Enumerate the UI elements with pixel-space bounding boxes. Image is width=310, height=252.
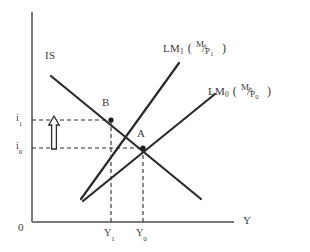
lm0-label-base: LM (208, 85, 225, 97)
x-axis-label: Y (243, 215, 251, 226)
y-tick-label-i1: i1 (16, 113, 22, 126)
point-a-marker (140, 145, 145, 150)
lm0-denominator: P0 (250, 90, 259, 99)
lm0-real-balance-fraction: M0 / P0 (241, 86, 263, 99)
y-tick-label-i0: i0 (16, 141, 22, 154)
is-curve-label: IS (45, 50, 55, 61)
up-arrow-icon (49, 116, 59, 149)
x-tick-label-y0: Y0 (136, 228, 147, 241)
point-a-label: A (137, 128, 145, 139)
lm0-paren-open: ( (232, 84, 238, 98)
lm1-curve-label: LM1 ( M1 / P1 ) (163, 42, 227, 56)
lm1-curve (81, 63, 179, 199)
lm0-label-sub: 0 (225, 90, 229, 99)
lm0-paren-close: ) (266, 84, 272, 98)
lm0-curve-label: LM0 ( M0 / P0 ) (208, 85, 272, 99)
isl-m-diagram: IS LM1 ( M1 / P1 ) LM0 ( M0 / P0 ) B A i… (0, 0, 310, 252)
lm1-label-sub: 1 (180, 47, 184, 56)
diagram-canvas (0, 0, 310, 252)
point-b-label: B (102, 97, 109, 108)
lm1-paren-close: ) (221, 41, 227, 55)
x-tick-label-y1: Y1 (104, 228, 115, 241)
lm1-paren-open: ( (187, 41, 193, 55)
origin-label: 0 (18, 222, 24, 233)
lm1-label-base: LM (163, 42, 180, 54)
point-b-marker (108, 117, 113, 122)
lm1-real-balance-fraction: M1 / P1 (196, 43, 218, 56)
lm1-denominator: P1 (205, 47, 214, 56)
